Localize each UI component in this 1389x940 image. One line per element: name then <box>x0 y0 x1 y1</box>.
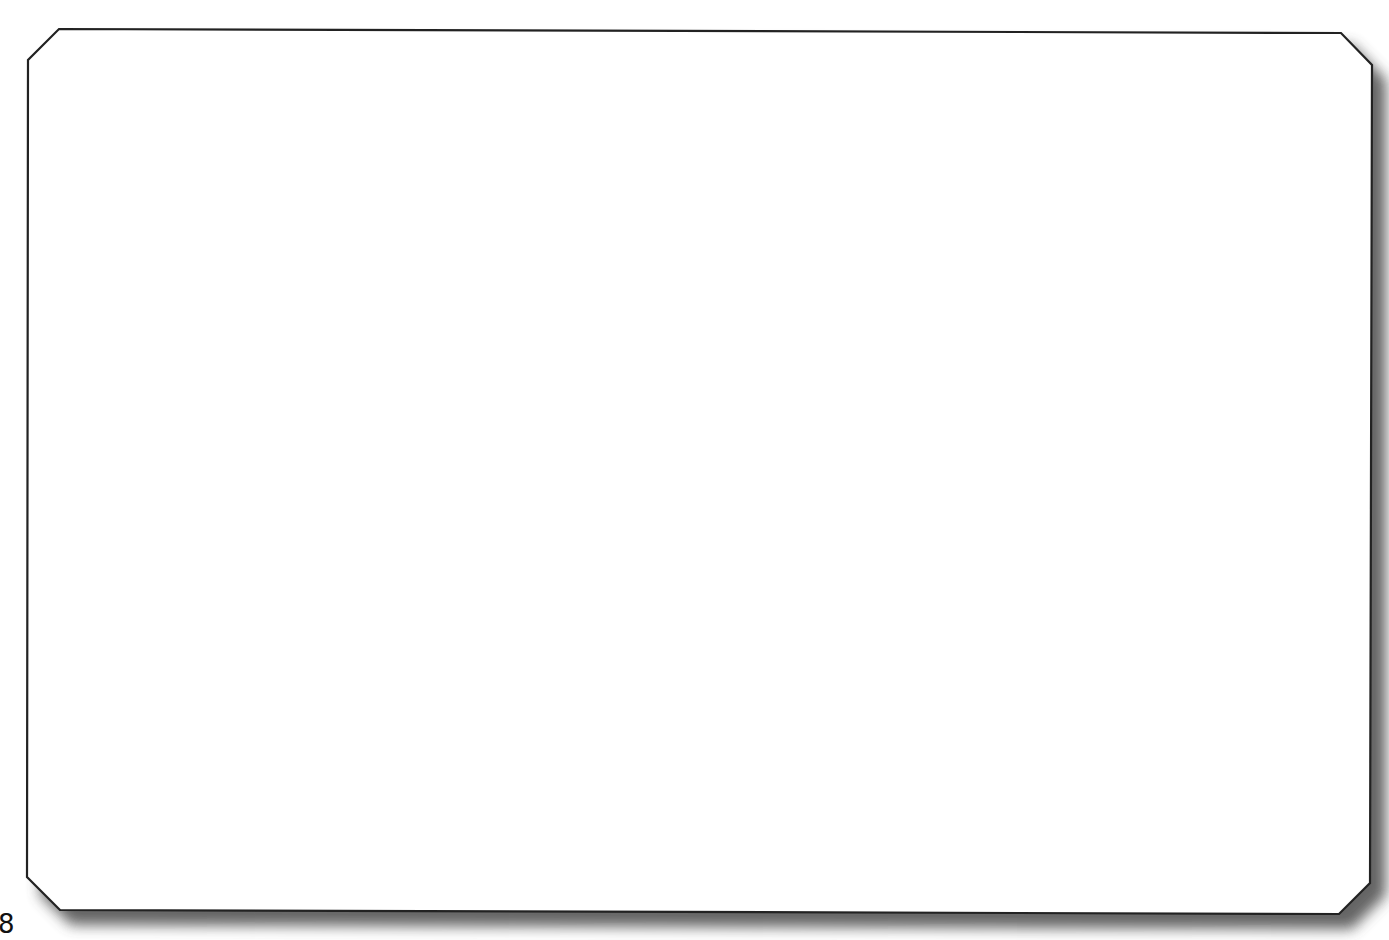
page-number: 8 <box>0 908 15 940</box>
frame-border <box>27 29 1372 914</box>
document-page: 8 <box>0 0 1389 940</box>
blank-frame <box>0 0 1389 940</box>
